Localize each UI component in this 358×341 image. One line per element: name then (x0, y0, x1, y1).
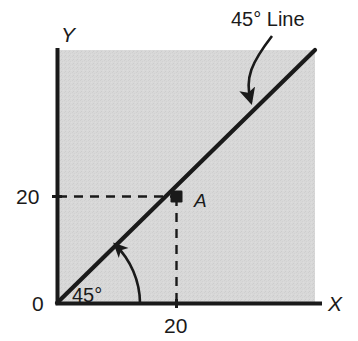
figure-45-degree-line: Y X 0 20 20 A 45° 45° Line (0, 0, 358, 341)
callout-label-45-line: 45° Line (231, 8, 305, 30)
x-axis-label: X (327, 292, 343, 315)
data-point-a-marker (171, 191, 183, 203)
origin-label: 0 (32, 292, 44, 315)
x-tick-label-20: 20 (164, 314, 187, 337)
point-label-a: A (193, 190, 207, 211)
angle-label-45: 45° (72, 284, 102, 306)
y-axis-label: Y (61, 23, 77, 46)
diagram-canvas: Y X 0 20 20 A 45° 45° Line (0, 0, 358, 341)
y-tick-label-20: 20 (16, 185, 39, 208)
